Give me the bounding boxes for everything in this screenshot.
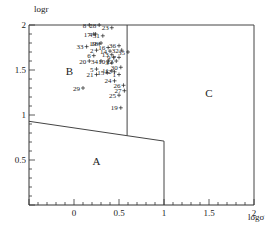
y-axis-label: logr <box>34 4 49 14</box>
point-label: 21 <box>87 71 95 79</box>
data-point: 29 <box>73 85 85 93</box>
point-label: 1 <box>113 71 117 79</box>
y-tick-label: 2 <box>22 20 27 30</box>
ticks: 00.511.520.511.52 <box>15 20 257 218</box>
region-label-c: C <box>205 87 212 99</box>
axes <box>29 25 254 205</box>
point-label: 8 <box>83 22 87 30</box>
data-point: 1 <box>113 71 122 79</box>
point-label: 12 <box>105 68 113 76</box>
point-label: 28 <box>89 22 97 30</box>
region-boundaries <box>29 25 254 205</box>
point-label: 29 <box>73 85 81 93</box>
point-label: 19 <box>111 104 119 112</box>
region-label-b: B <box>66 65 73 77</box>
y-tick-label: 1 <box>22 110 27 120</box>
data-point: 19 <box>111 104 123 112</box>
boundary-line <box>29 121 164 141</box>
point-label: 33 <box>77 43 85 51</box>
data-point: 33 <box>77 43 89 51</box>
point-label: 15 <box>97 69 105 77</box>
x-tick-label: 0 <box>72 208 77 218</box>
data-point: 35 <box>118 49 130 57</box>
data-point: 28 <box>89 22 101 30</box>
point-label: 20 <box>79 58 87 66</box>
scatter-chart: 00.511.520.511.52 ABC 828231743119183316… <box>0 0 268 233</box>
y-tick-label: 1.5 <box>15 65 27 75</box>
x-tick-label: 1.5 <box>203 208 215 218</box>
point-label: 24 <box>105 77 113 85</box>
region-labels: ABC <box>66 65 213 167</box>
point-label: 35 <box>118 49 126 57</box>
x-axis-label: logσ <box>248 212 265 222</box>
region-label-a: A <box>93 155 101 167</box>
x-tick-label: 1 <box>162 208 167 218</box>
x-tick-label: 0.5 <box>113 208 125 218</box>
point-label: 25 <box>109 92 117 100</box>
y-tick-label: 0.5 <box>15 155 27 165</box>
point-label: 23 <box>102 24 110 32</box>
data-point: 27 <box>114 87 126 95</box>
data-points: 8282317431191833163621432356139720342210… <box>73 22 130 113</box>
point-label: 3 <box>105 59 109 67</box>
